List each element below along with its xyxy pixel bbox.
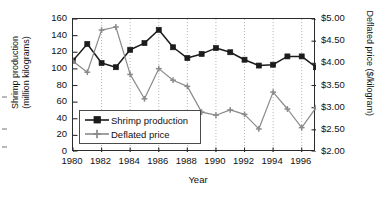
x-axis-title: Year (118, 175, 278, 186)
scan-artifact (2, 96, 7, 98)
y-axis-left-tick-label: 160 (41, 12, 67, 23)
data-point-marker (228, 50, 233, 55)
legend-label-shrimp-production: Shrimp production (110, 115, 188, 126)
y-axis-right-tick-label: $2.00 (321, 145, 355, 156)
series-shrimp-production (73, 27, 316, 69)
data-point-marker (185, 56, 190, 61)
data-point-marker (213, 46, 218, 51)
y-axis-right-tick-label: $5.00 (321, 12, 355, 23)
legend-marker-square-icon (84, 114, 110, 126)
legend-entry-deflated-price: Deflated price (84, 127, 196, 141)
data-point-marker (85, 41, 90, 46)
y-axis-left-tick-label: 20 (41, 128, 67, 139)
y-axis-right-tick-label: $4.00 (321, 56, 355, 67)
y-axis-right-tick-label: $3.50 (321, 79, 355, 90)
scan-artifact (2, 128, 7, 130)
y-axis-left-tick-label: 40 (41, 112, 67, 123)
data-point-marker (99, 61, 104, 66)
legend: Shrimp production Deflated price (79, 110, 201, 144)
shrimp-production-chart: Shrimp production (million kilograms) De… (0, 0, 384, 197)
y-axis-right-tick-label: $4.50 (321, 34, 355, 45)
y-axis-left-tick-label: 60 (41, 95, 67, 106)
data-point-marker (242, 57, 247, 62)
y-axis-left-tick-label: 140 (41, 29, 67, 40)
data-point-marker (142, 41, 147, 46)
y-axis-left-title-line2: (million kilograms) (20, 8, 31, 138)
y-axis-right-tick-label: $3.00 (321, 101, 355, 112)
x-axis-tick-label: 1996 (284, 155, 318, 166)
y-axis-left-title-line1: Shrimp production (10, 8, 21, 138)
y-axis-left-tick-label: 80 (41, 79, 67, 90)
data-point-marker (171, 45, 176, 50)
y-axis-left-title: Shrimp production (million kilograms) (10, 8, 31, 138)
data-point-marker (128, 47, 133, 52)
legend-entry-shrimp-production: Shrimp production (84, 113, 196, 127)
data-point-marker (199, 51, 204, 56)
data-point-marker (256, 63, 261, 68)
legend-marker-plus-icon (84, 128, 110, 140)
y-axis-right-title: Deflated price ($/kilogram) (365, 0, 376, 133)
y-axis-left-tick-label: 100 (41, 62, 67, 73)
data-point-marker (314, 65, 317, 70)
data-point-marker (285, 54, 290, 59)
data-point-marker (299, 54, 304, 59)
data-point-marker (271, 62, 276, 67)
y-axis-left-tick-label: 120 (41, 45, 67, 56)
data-point-marker (113, 65, 118, 70)
series-line (73, 30, 316, 67)
legend-label-deflated-price: Deflated price (110, 129, 170, 140)
scan-artifact (2, 146, 7, 148)
y-axis-right-tick-label: $2.50 (321, 123, 355, 134)
data-point-marker (156, 27, 161, 32)
